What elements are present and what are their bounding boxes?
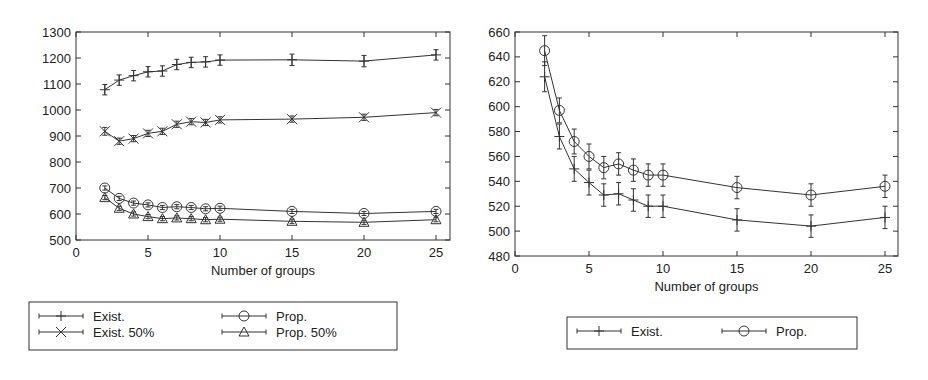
y-tick-label: 1100 [43,77,71,92]
series-line [105,188,436,214]
series-exist- [540,62,890,237]
y-tick-label: 700 [49,181,71,196]
series-line [105,113,436,142]
plot-frame [76,32,450,240]
y-tick-label: 480 [488,249,510,264]
x-axis-label: Number of groups [211,263,316,278]
y-tick-label: 520 [488,199,510,214]
x-tick-label: 25 [878,261,892,276]
y-tick-label: 1300 [42,25,71,40]
legend-item: Exist. [577,324,663,339]
y-tick-label: 540 [488,174,510,189]
figure: 5006007008009001000110012001300051015202… [0,0,928,380]
x-tick-label: 10 [656,261,670,276]
legend-label: Prop. [776,324,807,339]
series-line [105,198,436,223]
chart-right: 4805005205405605806006206406600510152025… [488,25,898,350]
legend-item: Exist. [39,309,125,324]
y-tick-label: 620 [488,74,510,89]
legend-label: Exist. 50% [93,325,155,340]
y-tick-label: 800 [49,155,71,170]
legend-box [29,302,397,350]
legend: Exist.Prop. [567,317,857,349]
series-prop- [100,183,441,218]
legend-item: Prop. [222,309,307,324]
x-tick-label: 15 [730,261,744,276]
legend-label: Exist. [631,324,663,339]
x-tick-label: 25 [429,245,443,260]
y-tick-label: 600 [488,99,510,114]
y-tick-label: 640 [488,49,510,64]
series-exist-50- [100,108,441,147]
x-tick-label: 15 [285,245,299,260]
series-line [545,51,885,195]
x-tick-label: 20 [357,245,371,260]
series-prop- [540,36,890,206]
legend-box [567,317,857,349]
x-tick-label: 0 [511,261,518,276]
y-tick-label: 1000 [42,103,71,118]
series-line [545,77,885,226]
y-tick-label: 580 [488,124,510,139]
x-tick-label: 20 [804,261,818,276]
series-line [105,55,436,90]
x-tick-label: 5 [585,261,592,276]
y-tick-label: 600 [49,207,71,222]
legend: Exist.Exist. 50%Prop.Prop. 50% [29,302,397,350]
y-tick-label: 660 [488,25,510,40]
x-tick-label: 5 [144,245,151,260]
y-tick-label: 560 [488,149,510,164]
legend-label: Prop. 50% [276,325,337,340]
x-axis-label: Number of groups [654,279,759,294]
y-tick-label: 500 [488,224,510,239]
legend-label: Prop. [276,309,307,324]
y-tick-label: 500 [49,233,71,248]
legend-label: Exist. [93,309,125,324]
x-tick-label: 0 [72,245,79,260]
chart-left: 5006007008009001000110012001300051015202… [29,25,450,351]
y-tick-label: 1200 [42,51,71,66]
series-exist- [100,50,441,95]
y-tick-label: 900 [49,129,71,144]
legend-item: Exist. 50% [39,325,155,340]
legend-item: Prop. 50% [222,325,337,340]
legend-item: Prop. [722,324,807,339]
x-tick-label: 10 [213,245,227,260]
